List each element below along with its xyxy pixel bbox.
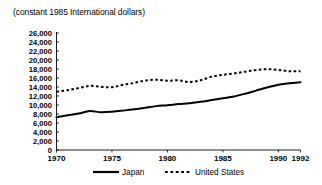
y-tick-label: 26,000	[29, 29, 52, 38]
x-tick-label: 1970	[48, 154, 66, 163]
legend-label-united-states: United States	[195, 168, 244, 177]
y-tick-label: 20,000	[29, 56, 52, 65]
line-chart-plot: 02,0004,0006,0008,00010,00012,00014,0001…	[0, 0, 322, 185]
y-tick-label: 8,000	[33, 110, 52, 119]
y-tick-label: 10,000	[29, 101, 52, 110]
x-tick-label: 1975	[103, 154, 121, 163]
x-axis-tick-labels: 197019751980198519901992	[48, 154, 310, 163]
y-tick-label: 2,000	[33, 137, 52, 146]
y-tick-label: 24,000	[29, 38, 52, 47]
series-line-japan	[57, 82, 301, 117]
y-tick-label: 4,000	[33, 128, 52, 137]
x-tick-label: 1992	[292, 154, 310, 163]
chart-container: (constant 1985 International dollars) 02…	[0, 0, 322, 185]
y-tick-label: 18,000	[29, 65, 52, 74]
y-axis-tick-labels: 02,0004,0006,0008,00010,00012,00014,0001…	[29, 29, 52, 155]
x-tick-label: 1990	[269, 154, 287, 163]
y-tick-label: 14,000	[29, 83, 52, 92]
y-tick-label: 6,000	[33, 119, 52, 128]
x-tick-label: 1980	[159, 154, 177, 163]
legend-label-japan: Japan	[122, 168, 145, 177]
y-tick-label: 16,000	[29, 74, 52, 83]
x-tick-label: 1985	[214, 154, 232, 163]
chart-legend: Japan United States	[93, 168, 244, 177]
y-tick-label: 22,000	[29, 47, 52, 56]
y-tick-label: 12,000	[29, 92, 52, 101]
